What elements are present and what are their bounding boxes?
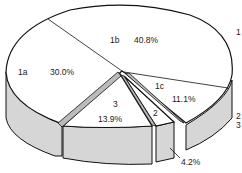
value-3: 13.9% [98,115,122,124]
pie-chart-graphic [0,0,242,173]
label-2: 2 [153,109,158,118]
value-1a: 30.0% [50,68,74,77]
label-1a: 1a [18,68,27,77]
edge-label-1: 1 [236,28,241,37]
label-1b: 1b [110,36,119,45]
value-1c: 11.1% [172,95,195,104]
label-3: 3 [113,100,118,109]
slice-3-side [63,126,152,164]
value-1b: 40.8% [134,36,158,45]
label-1c: 1c [155,82,164,91]
edge-label-3: 3 [236,121,241,130]
slice-2-side [156,122,174,162]
value-2: 4.2% [181,158,200,167]
